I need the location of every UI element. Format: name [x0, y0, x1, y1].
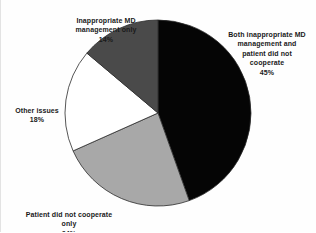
pie-label-percent: 45%	[217, 68, 316, 78]
pie-label-percent: 24%	[1, 229, 137, 233]
pie-label-text: Other issues	[15, 107, 59, 114]
pie-label-percent: 14%	[39, 35, 173, 45]
pie-label-percent: 18%	[1, 115, 73, 125]
pie-label-text: Patient did not cooperate only	[26, 211, 113, 228]
pie-label-patient-did-not-cooperate-only: Patient did not cooperate only 24%	[1, 200, 137, 232]
pie-label-text: Inappropriate MD management only	[75, 17, 136, 34]
pie-label-both-inappropriate-md-and-patient-not-cooperate: Both inappropriate MD management and pat…	[217, 20, 316, 87]
pie-label-inappropriate-md-management-only: Inappropriate MD management only 14%	[39, 6, 173, 54]
pie-label-text: Both inappropriate MD management and pat…	[228, 31, 306, 67]
pie-chart-figure: Inappropriate MD management only 14% Bot…	[0, 0, 316, 232]
pie-label-other-issues: Other issues 18%	[1, 96, 73, 134]
